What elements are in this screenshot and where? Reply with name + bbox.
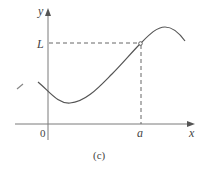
stray-mark: [17, 84, 23, 89]
y-axis: [45, 8, 51, 140]
L-label: L: [36, 37, 44, 51]
limit-diagram: y x L a 0 (c): [0, 0, 203, 175]
figure-caption: (c): [93, 149, 106, 162]
open-point: [139, 42, 143, 46]
a-label: a: [137, 126, 143, 140]
function-curve: [38, 27, 185, 103]
x-axis-label: x: [188, 126, 195, 140]
diagram-canvas: y x L a 0 (c): [0, 0, 203, 175]
origin-label: 0: [40, 127, 46, 139]
y-axis-label: y: [37, 4, 44, 18]
y-axis-arrow-icon: [45, 8, 51, 16]
